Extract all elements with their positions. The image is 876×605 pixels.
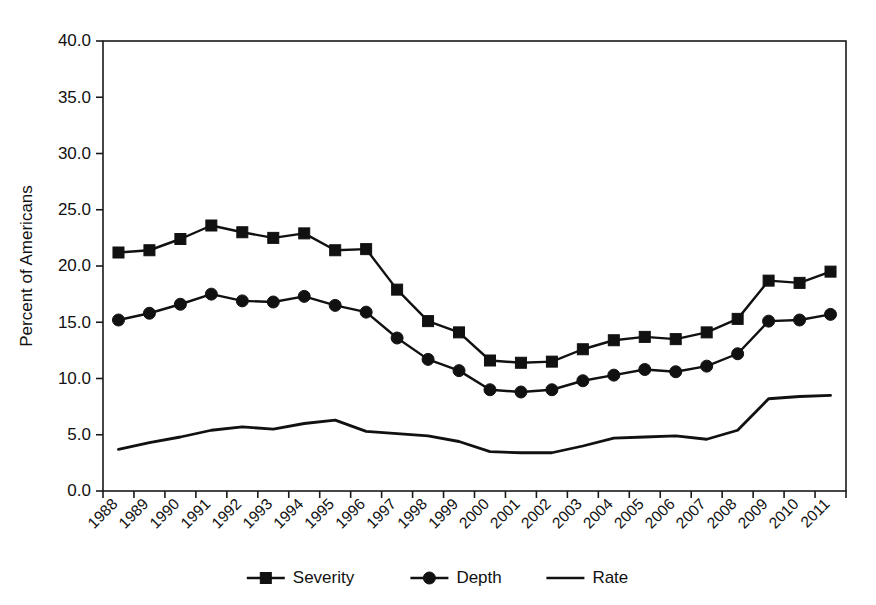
- datapoint-depth-2008: [732, 348, 744, 360]
- x-tick-label-1991: 1991: [177, 495, 213, 531]
- datapoint-severity-2008: [732, 313, 743, 324]
- x-tick-label-1999: 1999: [425, 495, 461, 531]
- plot-background: [103, 41, 846, 491]
- datapoint-severity-2004: [608, 335, 619, 346]
- datapoint-depth-2000: [484, 384, 496, 396]
- datapoint-depth-1989: [143, 307, 155, 319]
- legend-marker-circle: [423, 572, 435, 584]
- datapoint-depth-1994: [298, 290, 310, 302]
- datapoint-depth-1999: [453, 365, 465, 377]
- datapoint-depth-2003: [577, 375, 589, 387]
- datapoint-severity-1989: [144, 245, 155, 256]
- legend-entry-severity: Severity: [247, 568, 355, 587]
- datapoint-depth-2001: [515, 386, 527, 398]
- x-tick-label-1995: 1995: [301, 495, 337, 531]
- datapoint-severity-2005: [639, 331, 650, 342]
- x-tick-label-2004: 2004: [580, 495, 617, 532]
- x-tick-label-2000: 2000: [456, 495, 493, 532]
- datapoint-depth-2007: [701, 360, 713, 372]
- legend-entry-rate: Rate: [546, 568, 628, 587]
- x-tick-label-1996: 1996: [332, 495, 368, 531]
- datapoint-severity-2009: [763, 275, 774, 286]
- datapoint-severity-2011: [825, 266, 836, 277]
- datapoint-severity-2002: [546, 356, 557, 367]
- legend-label-depth: Depth: [456, 568, 501, 587]
- y-tick-label: 30.0: [58, 144, 91, 163]
- x-tick-label-2009: 2009: [734, 495, 770, 531]
- datapoint-severity-1997: [392, 284, 403, 295]
- datapoint-severity-1993: [268, 232, 279, 243]
- datapoint-depth-2009: [763, 315, 775, 327]
- datapoint-depth-1991: [205, 288, 217, 300]
- datapoint-depth-1998: [422, 353, 434, 365]
- datapoint-severity-1988: [113, 247, 124, 258]
- y-tick-label: 25.0: [58, 200, 91, 219]
- x-tick-label-2011: 2011: [797, 495, 833, 531]
- datapoint-severity-1994: [299, 228, 310, 239]
- y-axis: 0.05.010.015.020.025.030.035.040.0: [58, 31, 103, 500]
- chart-legend: SeverityDepthRate: [247, 568, 629, 587]
- x-tick-label-2008: 2008: [703, 495, 739, 531]
- datapoint-severity-1999: [454, 327, 465, 338]
- x-tick-label-1988: 1988: [84, 495, 120, 531]
- legend-entry-depth: Depth: [410, 568, 501, 587]
- datapoint-severity-1992: [237, 227, 248, 238]
- y-tick-label: 20.0: [58, 256, 91, 275]
- datapoint-depth-2002: [546, 384, 558, 396]
- x-tick-label-2006: 2006: [641, 495, 677, 531]
- datapoint-severity-1996: [361, 244, 372, 255]
- datapoint-depth-1992: [236, 295, 248, 307]
- datapoint-severity-2003: [577, 344, 588, 355]
- x-tick-label-1992: 1992: [208, 495, 244, 531]
- datapoint-severity-1995: [330, 245, 341, 256]
- chart-figure: 0.05.010.015.020.025.030.035.040.0 19881…: [0, 0, 876, 605]
- datapoint-severity-2007: [701, 327, 712, 338]
- legend-marker-square: [260, 573, 271, 584]
- datapoint-depth-2010: [794, 314, 806, 326]
- datapoint-depth-2005: [639, 364, 651, 376]
- y-tick-label: 5.0: [67, 425, 91, 444]
- x-tick-label-1998: 1998: [394, 495, 430, 531]
- x-tick-label-1990: 1990: [146, 495, 183, 532]
- datapoint-depth-2006: [670, 366, 682, 378]
- datapoint-severity-1998: [423, 316, 434, 327]
- datapoint-severity-2010: [794, 277, 805, 288]
- y-tick-label: 0.0: [67, 481, 91, 500]
- legend-label-rate: Rate: [592, 568, 628, 587]
- datapoint-depth-1990: [174, 298, 186, 310]
- datapoint-depth-1996: [360, 306, 372, 318]
- x-tick-label-1993: 1993: [239, 495, 275, 531]
- datapoint-depth-1997: [391, 332, 403, 344]
- x-tick-label-2001: 2001: [487, 495, 523, 531]
- datapoint-depth-2004: [608, 369, 620, 381]
- datapoint-depth-1995: [329, 299, 341, 311]
- datapoint-severity-2001: [515, 357, 526, 368]
- x-tick-label-2003: 2003: [549, 495, 585, 531]
- datapoint-depth-1993: [267, 296, 279, 308]
- x-tick-label-1994: 1994: [270, 495, 307, 532]
- x-tick-label-2007: 2007: [672, 495, 708, 531]
- x-tick-label-2002: 2002: [518, 495, 554, 531]
- datapoint-depth-2011: [825, 308, 837, 320]
- datapoint-severity-2006: [670, 334, 681, 345]
- legend-label-severity: Severity: [293, 568, 355, 587]
- y-tick-label: 10.0: [58, 369, 91, 388]
- y-tick-label: 15.0: [58, 313, 91, 332]
- datapoint-severity-1991: [206, 220, 217, 231]
- x-tick-label-1997: 1997: [363, 495, 399, 531]
- percent-of-americans-line-chart: 0.05.010.015.020.025.030.035.040.0 19881…: [0, 0, 876, 605]
- datapoint-severity-1990: [175, 234, 186, 245]
- x-axis: 1988198919901991199219931994199519961997…: [84, 491, 846, 532]
- y-axis-title: Percent of Americans: [17, 185, 36, 347]
- datapoint-depth-1988: [112, 314, 124, 326]
- x-tick-label-2005: 2005: [610, 495, 646, 531]
- y-tick-label: 40.0: [58, 31, 91, 50]
- datapoint-severity-2000: [484, 355, 495, 366]
- y-tick-label: 35.0: [58, 88, 91, 107]
- x-tick-label-1989: 1989: [115, 495, 151, 531]
- x-tick-label-2010: 2010: [765, 495, 802, 532]
